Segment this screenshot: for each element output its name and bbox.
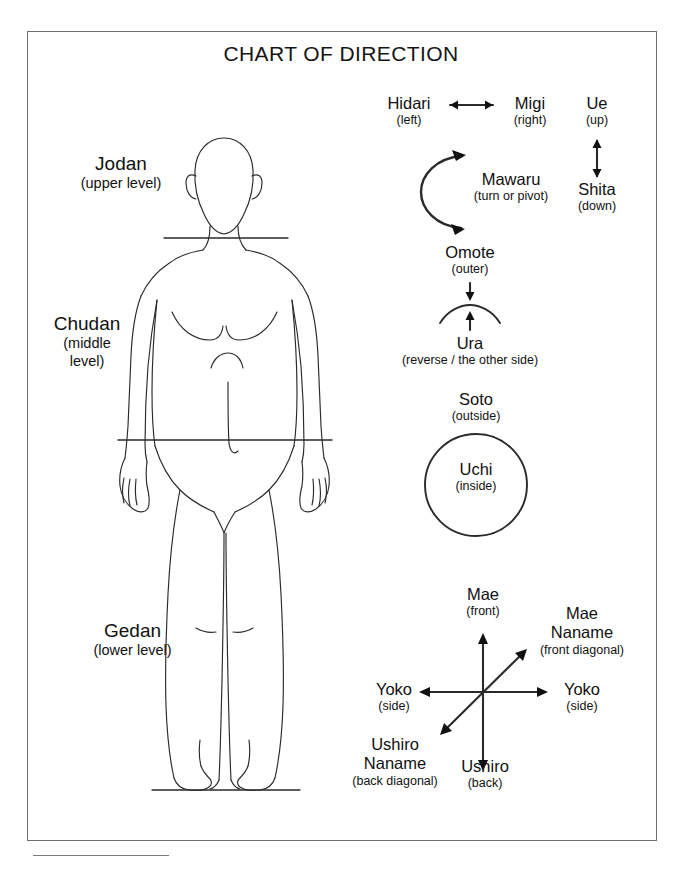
label-jodan-jp: Jodan — [36, 153, 206, 175]
label-yoko-right-jp: Yoko — [546, 680, 618, 699]
label-soto-en: (outside) — [436, 409, 516, 424]
label-hidari-en: (left) — [371, 113, 447, 128]
label-shita-jp: Shita — [563, 180, 631, 199]
label-chudan: Chudan (middle level) — [22, 313, 152, 370]
label-chudan-jp: Chudan — [22, 313, 152, 335]
label-mae-jp: Mae — [443, 585, 523, 604]
label-omote: Omote (outer) — [430, 243, 510, 277]
label-jodan: Jodan (upper level) — [36, 153, 206, 193]
label-gedan-jp: Gedan — [45, 620, 220, 642]
label-hidari-jp: Hidari — [371, 94, 447, 113]
label-migi-jp: Migi — [497, 94, 563, 113]
label-omote-en: (outer) — [430, 262, 510, 277]
label-mae: Mae (front) — [443, 585, 523, 619]
label-soto-jp: Soto — [436, 390, 516, 409]
label-uchi-en: (inside) — [436, 479, 516, 494]
label-mae-naname-jp-line2: Naname — [527, 623, 637, 642]
label-mawaru-en: (turn or pivot) — [461, 189, 561, 204]
label-yoko-right-en: (side) — [546, 699, 618, 714]
label-ushiro-jp: Ushiro — [445, 757, 525, 776]
label-jodan-en: (upper level) — [36, 175, 206, 192]
label-ue-en: (up) — [565, 113, 629, 128]
label-ue-jp: Ue — [565, 94, 629, 113]
label-mawaru-jp: Mawaru — [461, 170, 561, 189]
label-ue: Ue (up) — [565, 94, 629, 128]
label-gedan-en: (lower level) — [45, 642, 220, 659]
label-uchi-jp: Uchi — [436, 460, 516, 479]
label-chudan-en-line1: (middle — [22, 335, 152, 352]
label-yoko-left: Yoko (side) — [358, 680, 430, 714]
label-uchi: Uchi (inside) — [436, 460, 516, 494]
label-shita: Shita (down) — [563, 180, 631, 214]
label-migi: Migi (right) — [497, 94, 563, 128]
label-yoko-left-en: (side) — [358, 699, 430, 714]
label-mae-en: (front) — [443, 604, 523, 619]
label-soto: Soto (outside) — [436, 390, 516, 424]
label-migi-en: (right) — [497, 113, 563, 128]
label-yoko-left-jp: Yoko — [358, 680, 430, 699]
label-ushiro-naname-jp-line1: Ushiro — [340, 735, 450, 754]
label-ushiro-naname: Ushiro Naname (back diagonal) — [340, 735, 450, 789]
label-mae-naname-en: (front diagonal) — [527, 643, 637, 658]
label-yoko-right: Yoko (side) — [546, 680, 618, 714]
label-omote-jp: Omote — [430, 243, 510, 262]
label-hidari: Hidari (left) — [371, 94, 447, 128]
label-mae-naname-jp-line1: Mae — [527, 604, 637, 623]
label-gedan: Gedan (lower level) — [45, 620, 220, 660]
label-ura: Ura (reverse / the other side) — [380, 334, 560, 368]
page-title: CHART OF DIRECTION — [0, 42, 682, 66]
label-mae-naname: Mae Naname (front diagonal) — [527, 604, 637, 658]
label-ura-jp: Ura — [380, 334, 560, 353]
label-ushiro-naname-jp-line2: Naname — [340, 754, 450, 773]
label-shita-en: (down) — [563, 199, 631, 214]
label-ushiro: Ushiro (back) — [445, 757, 525, 791]
label-mawaru: Mawaru (turn or pivot) — [461, 170, 561, 204]
label-ushiro-en: (back) — [445, 776, 525, 791]
footnote-separator-rule — [33, 855, 169, 856]
label-ura-en: (reverse / the other side) — [380, 353, 560, 368]
label-ushiro-naname-en: (back diagonal) — [340, 774, 450, 789]
label-chudan-en-line2: level) — [22, 353, 152, 370]
